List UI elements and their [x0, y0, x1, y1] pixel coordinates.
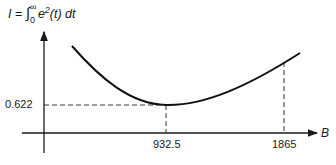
x-tick-932: 932.5: [153, 138, 181, 150]
x-tick-1865: 1865: [272, 138, 296, 150]
formula-lhs: I: [8, 7, 11, 21]
y-tick-min-value: 0.622: [5, 98, 33, 110]
upper-limit: ∞: [30, 2, 36, 12]
formula-equals: =: [15, 7, 22, 21]
integrand-arg: (t) dt: [50, 7, 76, 21]
lower-limit: 0: [30, 15, 35, 25]
integral-limits: ∞0: [30, 8, 38, 22]
performance-curve: [72, 46, 300, 105]
x-axis-label: B: [321, 126, 329, 140]
integral-formula: I = ∫∞0e2(t) dt: [8, 4, 76, 22]
integrand-base: e: [38, 7, 45, 21]
